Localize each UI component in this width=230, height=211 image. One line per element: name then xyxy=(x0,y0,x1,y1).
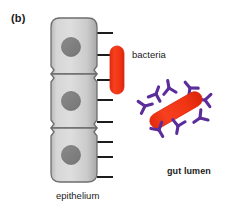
epithelial-cell xyxy=(51,18,97,74)
bacteria-label: bacteria xyxy=(132,50,166,60)
epithelial-cell xyxy=(51,128,97,182)
opsonized-bacterium-group xyxy=(138,78,211,139)
antibody-icon xyxy=(138,98,154,113)
adherent-bacterium xyxy=(110,46,124,94)
epithelial-cell xyxy=(51,74,97,128)
epithelium-cell-column xyxy=(51,18,113,182)
cell-nucleus xyxy=(62,146,81,165)
antibody-icon xyxy=(171,120,185,135)
figure-panel-b: (b) bacteria gut lumen epithelium xyxy=(0,0,230,211)
cell-nucleus xyxy=(62,92,81,111)
epithelium-label: epithelium xyxy=(56,191,99,201)
antibody-icon xyxy=(190,110,208,128)
gut-lumen-label: gut lumen xyxy=(167,167,211,176)
cell-nucleus xyxy=(62,38,81,57)
antibody-icon xyxy=(162,80,176,95)
panel-letter-label: (b) xyxy=(11,13,26,24)
diagram-canvas xyxy=(0,0,230,211)
antibody-icon xyxy=(148,85,164,101)
